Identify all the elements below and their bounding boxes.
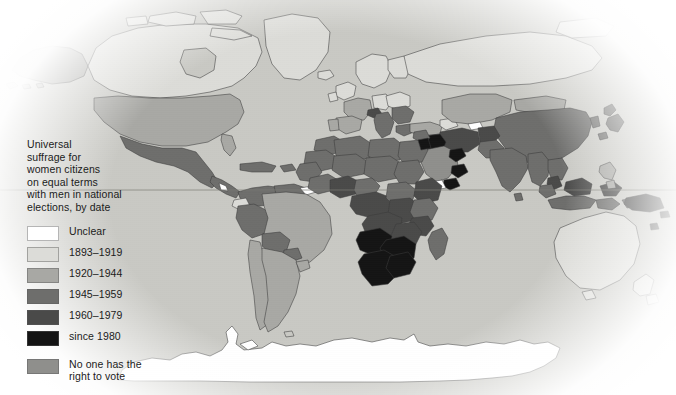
legend-item[interactable]: 1960–1979 [27, 309, 179, 327]
legend-label: No one has the right to vote [69, 358, 142, 383]
legend-swatch-unclear [27, 226, 59, 241]
legend-title: Universal suffrage for women citizens on… [27, 138, 179, 214]
legend-label: 1920–1944 [69, 267, 122, 279]
legend-item[interactable]: 1893–1919 [27, 246, 179, 264]
legend-item[interactable]: since 1980 [27, 330, 179, 348]
legend-label: since 1980 [69, 330, 121, 342]
legend-label: 1893–1919 [69, 246, 122, 258]
legend-item[interactable]: Unclear [27, 225, 179, 243]
legend-label: 1945–1959 [69, 288, 122, 300]
legend-swatch-1893-1919 [27, 247, 59, 262]
legend-item-no-vote[interactable]: No one has the right to vote [27, 358, 179, 386]
legend-swatch-no-vote [27, 359, 59, 374]
legend-item[interactable]: 1945–1959 [27, 288, 179, 306]
legend-spacer [27, 351, 179, 358]
legend-swatch-1960-1979 [27, 310, 59, 325]
legend-label: 1960–1979 [69, 309, 122, 321]
legend-swatch-1945-1959 [27, 289, 59, 304]
map-figure: Universal suffrage for women citizens on… [0, 0, 676, 395]
map-legend: Universal suffrage for women citizens on… [27, 138, 179, 389]
legend-swatch-1920-1944 [27, 268, 59, 283]
legend-label: Unclear [69, 225, 106, 237]
legend-swatch-since-1980 [27, 331, 59, 346]
legend-item[interactable]: 1920–1944 [27, 267, 179, 285]
